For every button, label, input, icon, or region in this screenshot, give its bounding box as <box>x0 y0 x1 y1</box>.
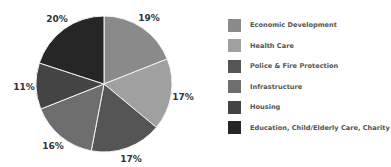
legend-label: Education, Child/Elderly Care, Charity <box>250 124 390 132</box>
legend-swatch <box>228 80 241 93</box>
slice-percent-label: 17% <box>120 154 142 164</box>
slice-percent-label: 20% <box>46 14 68 24</box>
slice-percent-label: 11% <box>13 82 35 92</box>
legend-item-infrastructure: Infrastructure <box>228 77 390 98</box>
legend-swatch <box>228 101 241 114</box>
slice-percent-label: 16% <box>42 141 64 151</box>
legend-swatch <box>228 39 241 52</box>
slice-percent-label: 19% <box>138 13 160 23</box>
legend-item-health-care: Health Care <box>228 36 390 57</box>
legend-item-economic-development: Economic Development <box>228 15 390 36</box>
slice-percent-label: 17% <box>172 92 194 102</box>
legend-item-education: Education, Child/Elderly Care, Charity <box>228 118 390 139</box>
legend-item-police-fire: Police & Fire Protection <box>228 56 390 77</box>
legend-label: Police & Fire Protection <box>250 62 338 70</box>
legend-label: Economic Development <box>250 21 337 29</box>
legend-swatch <box>228 19 241 32</box>
legend-label: Health Care <box>250 42 294 50</box>
legend-label: Infrastructure <box>250 83 302 91</box>
legend-item-housing: Housing <box>228 97 390 118</box>
legend-swatch <box>228 121 241 134</box>
legend-swatch <box>228 60 241 73</box>
legend-label: Housing <box>250 103 280 111</box>
chart-legend: Economic Development Health Care Police … <box>228 15 390 138</box>
pie-chart: 19%17%17%16%11%20% <box>0 0 220 167</box>
